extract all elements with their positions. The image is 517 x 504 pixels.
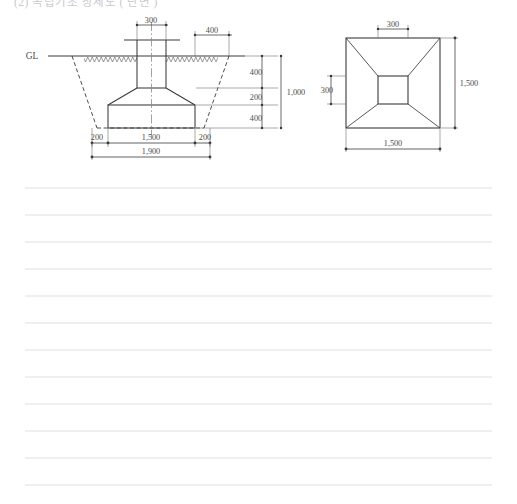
haunch-slope-right [166,88,195,105]
excavation-slope-right [204,56,229,128]
foundation-plan-view: 300 300 1,500 [321,20,478,152]
dim-plan-outer-bottom-1500: 1,500 [345,129,442,152]
dim-excavation-width-1900: 1,900 [91,143,212,160]
dim-depth-chain: 400 200 400 [196,55,278,130]
plan-outer-square [346,38,440,128]
backfill-hatch-right [166,57,218,64]
dim-base-chain: 200 1,500 200 [91,128,212,147]
ground-level-label: GL [26,51,39,61]
dim-label-base-left: 200 [91,133,103,142]
plan-diagonal-top-right [408,38,440,76]
dim-plan-inner-left-300: 300 [321,75,346,106]
foundation-section-view: GL [26,16,305,160]
dim-depth-total-1000: 1,000 [280,55,305,130]
excavation-slope-left [72,56,97,128]
plan-diagonal-bottom-right [408,104,440,128]
dim-label-base-width: 1,500 [142,133,160,142]
dim-label-column-width: 300 [145,16,157,25]
dim-plan-outer-right-1500: 1,500 [441,37,478,130]
dim-label-plan-inner-top: 300 [387,20,399,29]
haunch-slope-left [108,88,137,105]
dim-label-depth-upper: 400 [250,68,262,77]
dim-label-depth-lower: 400 [250,114,262,123]
drawing-page: (2) 독립기초 상세도 ( 단면 ) GL [0,0,517,504]
dim-label-depth-middle: 200 [250,93,262,102]
plan-diagonal-bottom-left [346,104,378,128]
dim-label-plan-inner-left: 300 [321,86,333,95]
dim-label-offset-right: 400 [206,26,218,35]
ruled-note-lines [25,188,492,485]
dim-label-depth-total: 1,000 [287,88,305,97]
dim-offset-right-400: 400 [194,26,232,56]
dim-label-excavation-width: 1,900 [142,147,160,156]
dim-label-base-right: 200 [199,133,211,142]
plan-diagonal-top-left [346,38,378,76]
dim-plan-inner-top-300: 300 [377,20,410,38]
backfill-hatch-left [84,57,137,64]
dim-label-plan-outer-bottom: 1,500 [384,139,402,148]
dim-label-plan-outer-right: 1,500 [460,79,478,88]
plan-inner-square [378,76,408,104]
technical-drawing-canvas: GL [0,0,517,504]
